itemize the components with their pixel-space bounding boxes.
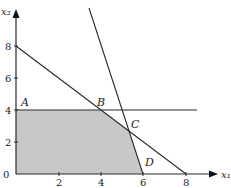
y-tick-label: 8 [5, 41, 11, 52]
x-axis-label: x₁ [221, 169, 231, 180]
y-tick-label: 2 [5, 137, 11, 148]
point-label-d: D [144, 156, 154, 169]
x-tick-label: 4 [98, 177, 104, 188]
x-tick-label: 2 [56, 177, 62, 188]
y-tick-label: 6 [5, 73, 11, 84]
point-label-b: B [96, 96, 105, 109]
point-label-a: A [20, 96, 29, 109]
origin-label: 0 [3, 169, 9, 180]
lp-diagram: 0 2 4 6 8 2 4 6 8 x₁ x₂ A B C D [0, 0, 231, 188]
x-axis-arrow-icon [209, 171, 218, 178]
feasible-region [16, 110, 143, 174]
y-axis-arrow-icon [13, 9, 20, 18]
x-tick-label: 6 [140, 177, 146, 188]
point-label-c: C [131, 118, 140, 131]
y-tick-label: 4 [5, 105, 11, 116]
x-tick-label: 8 [183, 177, 189, 188]
y-axis-label: x₂ [1, 6, 11, 17]
